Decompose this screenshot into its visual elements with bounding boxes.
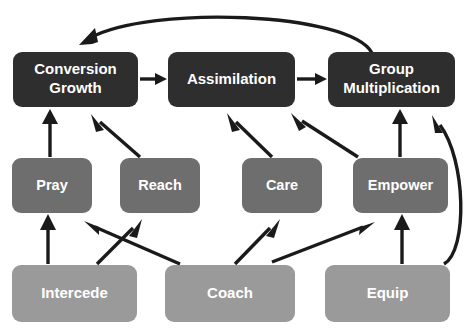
arrowhead xyxy=(42,109,58,124)
node-label-line-1: Reach xyxy=(138,177,182,193)
edge-path xyxy=(100,122,140,157)
edge-group-multiplication-to-conversion-growth xyxy=(79,17,372,53)
arrowhead xyxy=(155,73,167,85)
edge-intercede-to-reach xyxy=(97,219,142,264)
node-label-line-1: Equip xyxy=(367,284,409,301)
arrowhead xyxy=(394,214,410,230)
edge-empower-to-group-multiplication xyxy=(392,109,408,157)
node-equip[interactable]: Equip xyxy=(325,265,450,322)
edge-path xyxy=(90,17,372,53)
node-pray[interactable]: Pray xyxy=(12,158,92,213)
edge-path xyxy=(235,228,270,264)
edge-coach-to-empower xyxy=(272,222,375,262)
node-coach[interactable]: Coach xyxy=(165,265,295,322)
arrowhead xyxy=(84,221,99,235)
edge-pray-to-conversion-growth xyxy=(42,109,58,157)
edge-path xyxy=(302,121,358,157)
node-label-line-2: Multiplication xyxy=(343,79,440,96)
arrowhead xyxy=(315,73,327,85)
edge-equip-to-empower xyxy=(394,214,410,264)
node-label-line-1: Pray xyxy=(36,177,67,193)
edge-coach-to-care xyxy=(235,219,280,264)
edge-reach-to-conversion-growth xyxy=(91,114,140,157)
node-intercede[interactable]: Intercede xyxy=(12,265,137,322)
edge-path xyxy=(236,122,272,157)
node-group-multiplication[interactable]: Group Multiplication xyxy=(328,52,455,107)
node-label-line-1: Care xyxy=(266,177,298,193)
process-flow-diagram: Conversion Growth Assimilation Group Mul… xyxy=(0,0,470,332)
node-label-line-1: Intercede xyxy=(41,284,108,301)
edge-path xyxy=(97,228,133,264)
arrowhead xyxy=(392,109,408,124)
arrowhead xyxy=(79,28,98,45)
arrowhead xyxy=(359,222,375,235)
node-label-line-1: Conversion xyxy=(34,60,117,77)
edge-intercede-to-pray xyxy=(40,214,56,264)
node-care[interactable]: Care xyxy=(242,158,322,213)
edge-path xyxy=(272,227,363,262)
node-label-line-1: Empower xyxy=(368,177,434,193)
node-label-line-2: Growth xyxy=(49,79,102,96)
edge-care-to-assimilation xyxy=(227,113,272,157)
node-label-line-1: Group xyxy=(369,60,414,77)
arrowhead xyxy=(40,214,56,230)
edge-conversion-growth-to-assimilation xyxy=(140,73,167,85)
node-label-line-1: Assimilation xyxy=(187,70,276,87)
edge-assimilation-to-group-multiplication xyxy=(297,73,327,85)
diagram-canvas: Conversion Growth Assimilation Group Mul… xyxy=(0,0,470,332)
node-assimilation[interactable]: Assimilation xyxy=(168,52,295,107)
node-label-line-1: Coach xyxy=(207,284,253,301)
edge-empower-to-assimilation xyxy=(291,113,358,157)
node-reach[interactable]: Reach xyxy=(120,158,200,213)
node-layer: Conversion Growth Assimilation Group Mul… xyxy=(12,52,455,322)
node-empower[interactable]: Empower xyxy=(353,158,448,213)
node-conversion-growth[interactable]: Conversion Growth xyxy=(13,52,138,107)
